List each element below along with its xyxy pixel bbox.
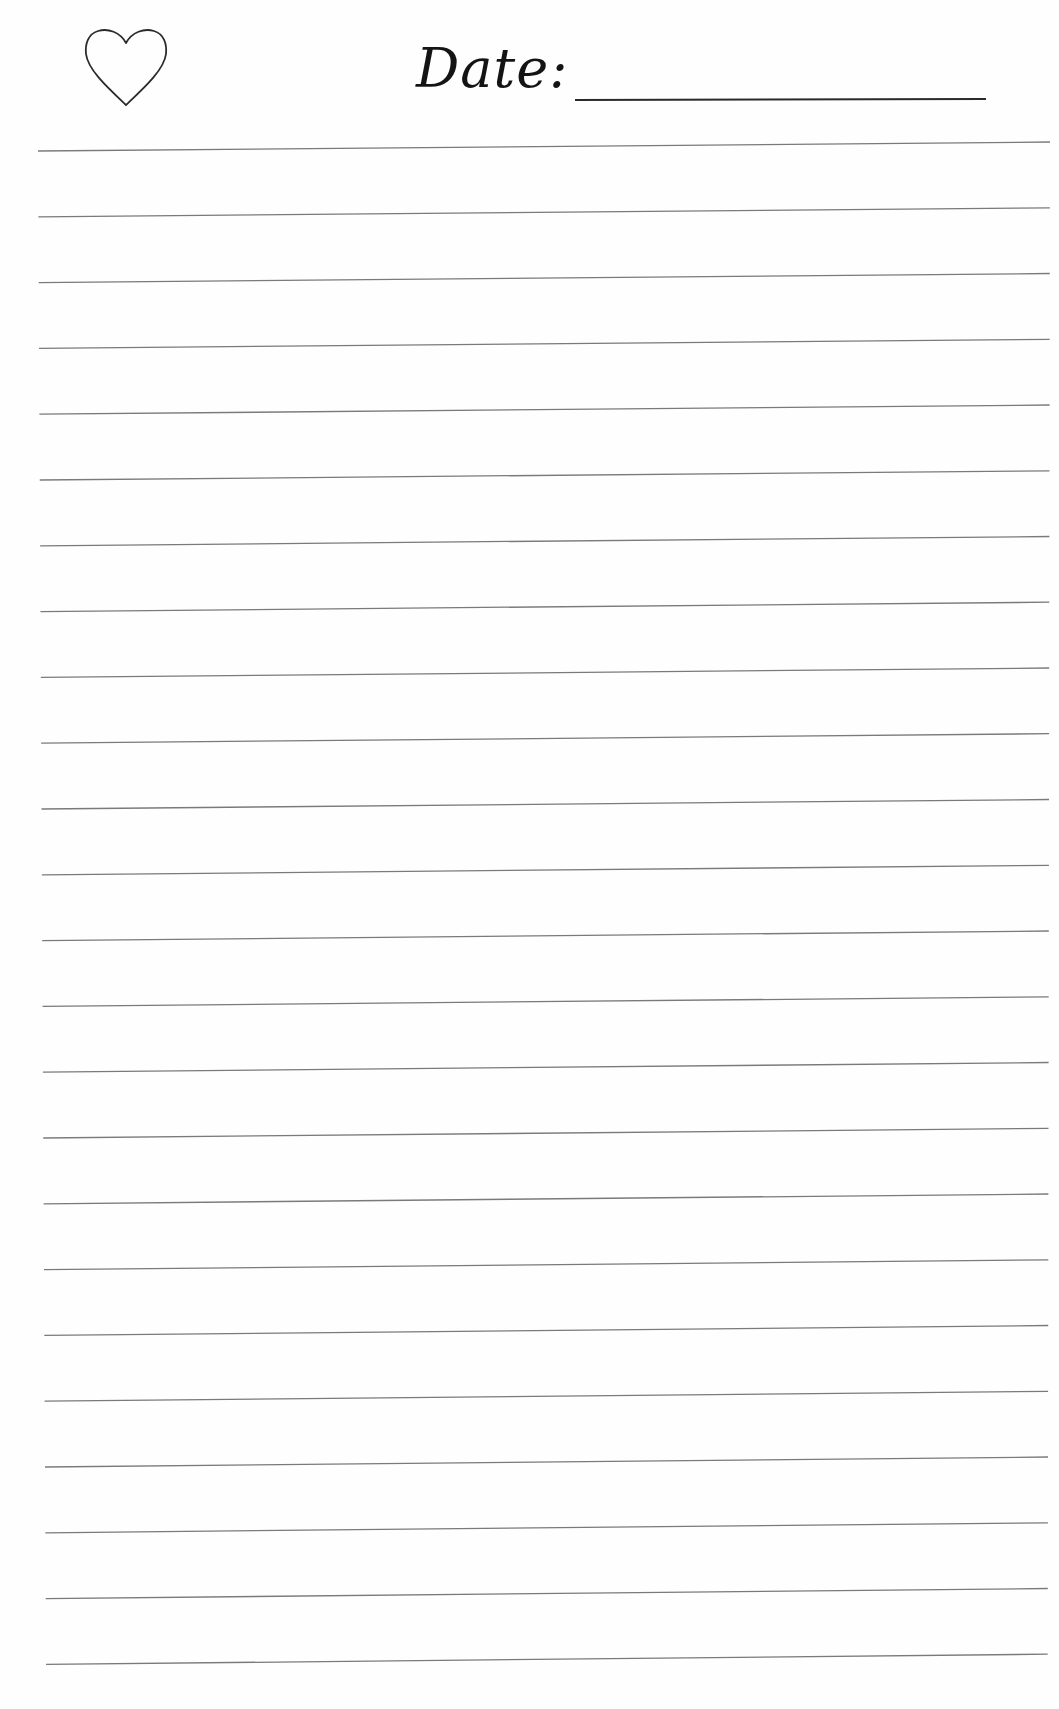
writing-line	[42, 800, 1050, 810]
writing-line	[42, 865, 1049, 875]
writing-line	[44, 1326, 1048, 1336]
writing-line	[44, 1260, 1048, 1270]
writing-line	[41, 668, 1049, 677]
writing-line	[40, 602, 1049, 611]
writing-line	[39, 405, 1049, 414]
writing-line	[43, 1063, 1049, 1073]
writing-line	[39, 274, 1050, 283]
writing-line	[42, 931, 1049, 941]
writing-line	[43, 1128, 1048, 1138]
writing-line	[43, 997, 1049, 1007]
writing-line	[38, 208, 1050, 217]
writing-line	[40, 471, 1050, 480]
ruled-lines	[0, 0, 1059, 1709]
writing-line	[45, 1523, 1048, 1533]
writing-line	[44, 1194, 1049, 1204]
writing-line	[41, 734, 1049, 744]
writing-line	[46, 1589, 1048, 1599]
writing-line	[38, 142, 1050, 151]
writing-line	[45, 1457, 1048, 1467]
writing-line	[40, 537, 1049, 546]
writing-line	[45, 1391, 1048, 1401]
writing-line	[46, 1654, 1048, 1664]
writing-line	[39, 339, 1050, 348]
notebook-page: Date:	[0, 0, 1059, 1709]
